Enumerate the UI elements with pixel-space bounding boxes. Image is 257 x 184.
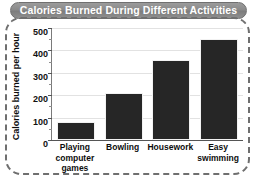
y-axis-tick-label: 500 — [33, 28, 48, 37]
y-axis-tick-mark — [48, 118, 52, 119]
bar — [152, 60, 190, 140]
y-axis-tick-label: 300 — [33, 72, 48, 81]
x-axis-category-label-line: games — [51, 163, 99, 174]
x-axis-category-label-line: swimming — [194, 153, 242, 164]
x-axis-category-labels: PlayingcomputergamesBowlingHouseworkEasy… — [51, 142, 242, 174]
bar-chart: Calories burned per hour 010020030040050… — [14, 24, 244, 174]
bar-series — [52, 28, 243, 140]
x-axis-category-label-line: Bowling — [99, 142, 147, 153]
y-axis-tick-labels: 0100200300400500 — [26, 28, 48, 140]
bar — [105, 93, 143, 140]
y-axis-tick-mark — [48, 50, 52, 51]
x-axis-category-label: Easyswimming — [194, 142, 242, 163]
x-axis-category-label: Housework — [147, 142, 195, 153]
x-axis-category-label-line: computer — [51, 153, 99, 164]
x-axis-category-label: Playingcomputergames — [51, 142, 99, 174]
bar — [200, 39, 238, 140]
y-axis-minor-tick-mark — [49, 106, 52, 107]
y-axis-title: Calories burned per hour — [10, 32, 24, 140]
y-axis-title-text: Calories burned per hour — [13, 32, 22, 140]
x-axis-category-label: Bowling — [99, 142, 147, 153]
x-axis-line — [51, 140, 242, 141]
chart-screenshot: Calories Burned During Different Activit… — [0, 0, 257, 184]
y-axis-tick-mark — [48, 73, 52, 74]
y-axis-tick-label: 200 — [33, 95, 48, 104]
y-axis-minor-tick-mark — [49, 39, 52, 40]
bar — [57, 122, 95, 140]
y-axis-minor-tick-mark — [49, 84, 52, 85]
y-axis-minor-tick-mark — [49, 62, 52, 63]
page-title: Calories Burned During Different Activit… — [20, 5, 237, 16]
y-axis-tick-mark — [48, 28, 52, 29]
x-axis-category-label-line: Easy — [194, 142, 242, 153]
y-axis-minor-tick-mark — [49, 129, 52, 130]
plot-area — [51, 28, 243, 140]
y-axis-tick-mark — [48, 95, 52, 96]
x-axis-category-label-line: Housework — [147, 142, 195, 153]
y-axis-tick-label: 100 — [33, 117, 48, 126]
x-axis-category-label-line: Playing — [51, 142, 99, 153]
y-axis-tick-label: 400 — [33, 50, 48, 59]
